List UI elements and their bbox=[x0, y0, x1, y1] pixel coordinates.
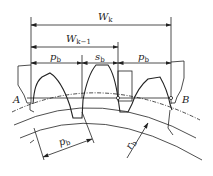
right-root bbox=[168, 110, 173, 135]
base-circle bbox=[20, 123, 202, 160]
wk1-label: Wk−1 bbox=[66, 33, 91, 46]
gear-tooth-1 bbox=[33, 73, 83, 118]
rb-label: rb bbox=[123, 137, 139, 152]
diagram-canvas: Wk Wk−1 pb sb pb pb rb A B bbox=[0, 0, 213, 176]
wk-label: Wk bbox=[98, 11, 113, 24]
point-a-label: A bbox=[12, 94, 20, 105]
sb-label: sb bbox=[95, 51, 105, 64]
gear-diagram: Wk Wk−1 pb sb pb pb rb A B bbox=[0, 0, 213, 176]
small-measure-block bbox=[118, 71, 132, 101]
contact-point-mid bbox=[116, 96, 119, 99]
lower-pb-ext-right bbox=[82, 112, 94, 143]
pb-right-label: pb bbox=[138, 51, 149, 64]
lower-pb-ext-left bbox=[34, 128, 44, 160]
left-root bbox=[30, 104, 34, 112]
rb-radius-arrow bbox=[127, 123, 148, 158]
gear-tooth-3 bbox=[132, 77, 172, 110]
point-b-label: B bbox=[181, 94, 189, 105]
gear-tooth-2 bbox=[83, 65, 132, 112]
pb-left-label: pb bbox=[50, 51, 61, 64]
left-flank-tail bbox=[30, 140, 34, 143]
contact-point-b bbox=[169, 96, 172, 99]
